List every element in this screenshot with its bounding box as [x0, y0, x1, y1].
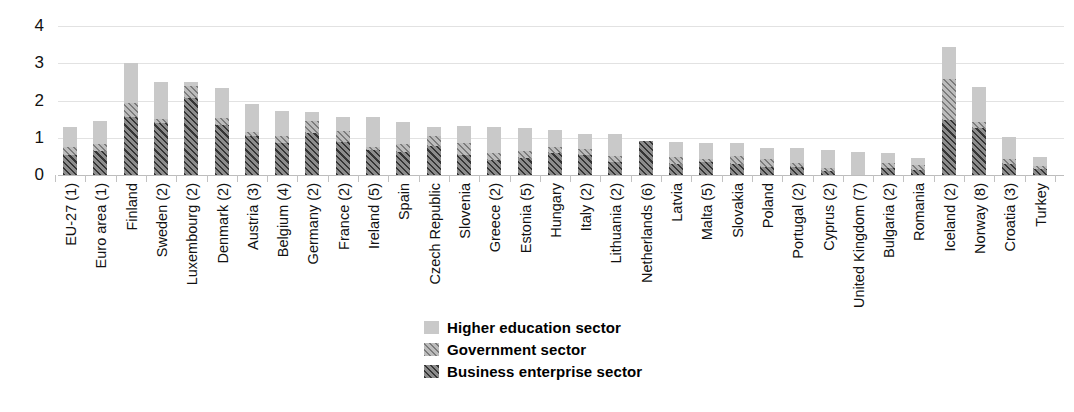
bar-segment-business-enterprise	[548, 153, 562, 175]
bars-container	[58, 26, 1064, 175]
chart-legend: Higher education sector Government secto…	[424, 316, 642, 382]
y-axis-labels: 01234	[0, 0, 52, 412]
bar-segment-higher-education	[275, 111, 289, 136]
x-axis-category-label: Malta (5)	[700, 183, 715, 240]
x-axis-category-label: Turkey	[1034, 183, 1049, 227]
x-axis-category-label: Estonia (5)	[519, 183, 534, 253]
bar-segment-business-enterprise	[760, 167, 774, 175]
bar-segment-higher-education	[790, 148, 804, 163]
bar-group[interactable]	[457, 126, 471, 175]
x-axis-category-label: Croatia (3)	[1003, 183, 1018, 252]
bar-group[interactable]	[760, 148, 774, 175]
bar-segment-higher-education	[305, 112, 319, 120]
x-axis-category-label: Iceland (2)	[943, 183, 958, 252]
bar-group[interactable]	[366, 117, 380, 175]
bar-group[interactable]	[608, 134, 622, 175]
bar-group[interactable]	[336, 117, 350, 175]
bar-segment-government	[1033, 166, 1047, 170]
bar-segment-higher-education	[881, 153, 895, 163]
x-axis-tick	[116, 175, 117, 182]
bar-group[interactable]	[305, 112, 319, 175]
government-swatch	[424, 343, 439, 356]
legend-item-government[interactable]: Government sector	[424, 338, 642, 360]
x-axis-tick	[1025, 175, 1026, 182]
x-axis-category-label: Latvia	[670, 183, 685, 222]
bar-group[interactable]	[184, 82, 198, 175]
x-axis-category-label: Spain	[397, 183, 412, 220]
bar-segment-higher-education	[215, 88, 229, 117]
bar-segment-business-enterprise	[699, 162, 713, 175]
bar-segment-government	[669, 157, 683, 164]
legend-item-higher-education[interactable]: Higher education sector	[424, 316, 642, 338]
bar-group[interactable]	[669, 142, 683, 175]
bar-segment-higher-education	[366, 117, 380, 146]
bar-segment-business-enterprise	[881, 168, 895, 175]
bar-segment-government	[548, 147, 562, 154]
x-axis-category-label: Slovakia	[731, 183, 746, 238]
bar-group[interactable]	[639, 141, 653, 175]
x-axis-tick	[813, 175, 814, 182]
bar-group[interactable]	[699, 143, 713, 175]
bar-group[interactable]	[942, 47, 956, 175]
x-axis-tick	[964, 175, 965, 182]
bar-group[interactable]	[548, 130, 562, 175]
bar-segment-business-enterprise	[93, 151, 107, 175]
x-axis-tick	[631, 175, 632, 182]
bar-segment-government	[124, 103, 138, 117]
bar-group[interactable]	[396, 122, 410, 175]
bar-group[interactable]	[578, 134, 592, 175]
x-axis-tick	[782, 175, 783, 182]
bar-group[interactable]	[851, 152, 865, 175]
bar-group[interactable]	[518, 128, 532, 175]
x-axis-category-label: Czech Republic	[428, 183, 443, 285]
y-axis-tick-label: 3	[0, 54, 44, 71]
bar-segment-higher-education	[669, 142, 683, 157]
bar-group[interactable]	[63, 127, 77, 175]
bar-segment-business-enterprise	[730, 164, 744, 175]
bar-group[interactable]	[275, 111, 289, 175]
x-axis-category-label: Cyprus (2)	[822, 183, 837, 251]
x-axis-category-label: Euro area (1)	[94, 183, 109, 268]
x-axis-category-label: United Kingdom (7)	[852, 183, 867, 308]
bar-group[interactable]	[821, 150, 835, 175]
bar-segment-business-enterprise	[305, 133, 319, 175]
bar-segment-government	[760, 159, 774, 167]
bar-group[interactable]	[730, 143, 744, 175]
bar-segment-higher-education	[608, 134, 622, 156]
bar-group[interactable]	[972, 87, 986, 175]
bar-segment-government	[578, 149, 592, 155]
bar-segment-higher-education	[93, 121, 107, 144]
bar-group[interactable]	[215, 88, 229, 175]
legend-item-business-enterprise[interactable]: Business enterprise sector	[424, 360, 642, 382]
bar-segment-business-enterprise	[336, 142, 350, 175]
bar-segment-higher-education	[245, 104, 259, 132]
bar-segment-government	[336, 131, 350, 143]
bar-segment-higher-education	[760, 148, 774, 159]
x-axis-category-label: Ireland (5)	[367, 183, 382, 249]
bar-group[interactable]	[154, 82, 168, 175]
bar-group[interactable]	[790, 148, 804, 175]
bar-group[interactable]	[881, 153, 895, 175]
bar-group[interactable]	[93, 121, 107, 175]
bar-group[interactable]	[427, 127, 441, 175]
x-axis-tick	[237, 175, 238, 182]
bar-segment-higher-education	[699, 143, 713, 159]
bar-segment-higher-education	[124, 63, 138, 103]
bar-group[interactable]	[911, 158, 925, 175]
bar-segment-government	[487, 153, 501, 160]
x-axis-ticks	[58, 175, 1064, 182]
x-axis-tick	[419, 175, 420, 182]
x-axis-category-label: Poland	[761, 183, 776, 228]
bar-segment-higher-education	[730, 143, 744, 157]
bar-group[interactable]	[245, 104, 259, 175]
x-axis-tick	[207, 175, 208, 182]
x-axis-category-label: Austria (3)	[246, 183, 261, 250]
bar-group[interactable]	[487, 127, 501, 175]
bar-group[interactable]	[1002, 137, 1016, 175]
stacked-bar-chart: 01234 EU-27 (1)Euro area (1)FinlandSwede…	[0, 0, 1074, 412]
x-axis-tick	[752, 175, 753, 182]
bar-group[interactable]	[1033, 157, 1047, 175]
bar-segment-business-enterprise	[63, 155, 77, 175]
bar-group[interactable]	[124, 63, 138, 175]
bar-segment-higher-education	[911, 158, 925, 165]
